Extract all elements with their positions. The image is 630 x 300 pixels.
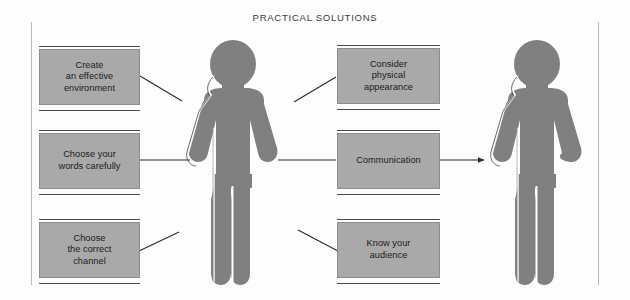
box-choose-the-correct-channel[interactable]: Choose the correct channel — [39, 222, 140, 278]
rule-above-box-6 — [337, 219, 440, 220]
connector-appearance — [294, 77, 336, 102]
frame-right-border — [598, 22, 599, 285]
box-choose-your-words-carefully[interactable]: Choose your words carefully — [39, 133, 140, 189]
box-know-your-audience[interactable]: Know your audience — [337, 222, 440, 278]
rule-above-box-4 — [337, 45, 440, 46]
box-communication[interactable]: Communication — [337, 133, 440, 189]
rule-below-box-3 — [39, 283, 140, 284]
rule-below-box-6 — [337, 283, 440, 284]
box-consider-physical-appearance[interactable]: Consider physical appearance — [337, 48, 440, 104]
connector-environment — [140, 76, 182, 101]
rule-above-box-2 — [39, 130, 140, 131]
connector-audience — [298, 230, 338, 251]
rule-below-box-1 — [39, 110, 140, 111]
diagram-canvas: PRACTICAL SOLUTIONS — [0, 0, 630, 300]
frame-left-border — [31, 22, 32, 285]
rule-below-box-4 — [337, 109, 440, 110]
page-title: PRACTICAL SOLUTIONS — [0, 12, 630, 23]
rule-above-box-5 — [337, 130, 440, 131]
rule-below-box-2 — [39, 194, 140, 195]
box-create-effective-environment[interactable]: Create an effective environment — [39, 49, 140, 105]
connector-channel — [139, 232, 179, 251]
sender-figure — [187, 40, 278, 285]
rule-below-box-5 — [337, 194, 440, 195]
rule-above-box-3 — [39, 219, 140, 220]
receiver-figure — [491, 40, 582, 285]
rule-above-box-1 — [39, 46, 140, 47]
